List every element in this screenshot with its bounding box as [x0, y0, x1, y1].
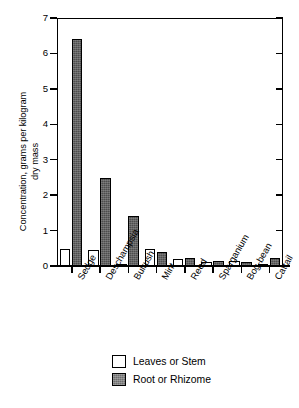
bar-chart-figure: Concentration, grams per kilogram dry ma… [0, 0, 299, 408]
y-tick-7 [50, 17, 57, 18]
legend-label-leaves: Leaves or Stem [133, 356, 206, 367]
bars-layer [57, 18, 283, 266]
y-tick-label-5: 5 [34, 84, 48, 94]
y-tick-label-3: 3 [34, 155, 48, 165]
bar [60, 249, 71, 266]
bar-group [60, 18, 83, 266]
y-tick-2 [50, 194, 57, 195]
x-tick [184, 266, 186, 273]
bar [72, 39, 83, 266]
y-tick-label-2: 2 [34, 190, 48, 200]
x-tick [128, 266, 130, 273]
x-tick [156, 266, 158, 273]
bar-group [229, 18, 252, 266]
bar-group [258, 18, 281, 266]
y-tick-label-6: 6 [34, 48, 48, 58]
x-tick [99, 266, 101, 273]
y-tick-label-7: 7 [34, 13, 48, 23]
bar-group [88, 18, 111, 266]
bar-group [201, 18, 224, 266]
bar [100, 178, 111, 266]
x-tick [269, 266, 271, 273]
legend-swatch-root-icon [112, 373, 126, 386]
legend-label-root: Root or Rhizome [133, 374, 211, 385]
y-tick-1 [50, 230, 57, 231]
y-tick-label-4: 4 [34, 119, 48, 129]
y-tick-6 [50, 53, 57, 54]
y-axis-title-line1: Concentration, grams per kilogram [18, 92, 28, 231]
y-tick-label-0: 0 [34, 261, 48, 271]
y-tick-3 [50, 159, 57, 160]
legend-item-leaves: Leaves or Stem [112, 355, 211, 368]
chart-legend: Leaves or Stem Root or Rhizome [112, 355, 211, 391]
y-tick-label-1: 1 [34, 226, 48, 236]
x-tick [241, 266, 243, 273]
y-tick-4 [50, 124, 57, 125]
bar-group [173, 18, 196, 266]
x-tick [71, 266, 73, 273]
legend-swatch-leaves-icon [112, 355, 126, 368]
bar-group [145, 18, 168, 266]
y-tick-5 [50, 88, 57, 89]
x-tick [212, 266, 214, 273]
y-tick-0 [50, 265, 57, 266]
legend-item-root: Root or Rhizome [112, 373, 211, 386]
